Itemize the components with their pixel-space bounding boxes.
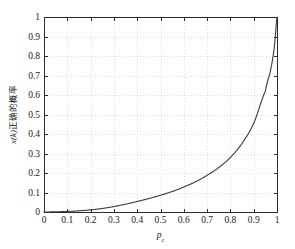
figure-container: 00.10.20.30.40.50.60.70.80.91 00.10.20.3… (0, 0, 295, 249)
x-tick-label: 0.8 (224, 215, 236, 225)
y-tick-label: 0.4 (28, 129, 40, 139)
y-tick-label: 0.7 (28, 71, 40, 81)
x-tick-label: 0.5 (155, 215, 167, 225)
y-axis-title-text: x(k)正确的概率 (8, 85, 18, 145)
x-tick-label: 0.7 (201, 215, 213, 225)
y-tick-label: 0.8 (28, 51, 40, 61)
x-axis-title: pc (156, 230, 165, 243)
x-tick-label: 0 (42, 215, 47, 225)
y-axis-title: x(k)正确的概率 (8, 85, 18, 145)
y-tick-label: 0.2 (28, 168, 40, 178)
x-tick-label: 0.4 (131, 215, 143, 225)
x-tick-label: 0.1 (61, 215, 73, 225)
x-axis-title-text: pc (156, 230, 165, 243)
y-tick-label: 0 (35, 207, 40, 217)
x-tick-label: 0.2 (85, 215, 97, 225)
x-tick-label: 0.9 (248, 215, 260, 225)
y-tick-label: 0.5 (28, 110, 40, 120)
y-tick-labels-group: 00.10.20.30.40.50.60.70.80.91 (28, 12, 40, 217)
y-tick-label: 0.3 (28, 149, 40, 159)
x-tick-labels-group: 00.10.20.30.40.50.60.70.80.91 (42, 215, 280, 225)
x-tick-label: 1 (275, 215, 280, 225)
y-tick-label: 0.1 (28, 188, 40, 198)
y-tick-label: 0.6 (28, 90, 40, 100)
chart-plot: 00.10.20.30.40.50.60.70.80.91 00.10.20.3… (0, 0, 295, 249)
axes-frame (45, 18, 278, 213)
x-tick-label: 0.6 (178, 215, 190, 225)
y-tick-label: 1 (35, 12, 40, 22)
data-series-line (44, 17, 277, 212)
y-tick-label: 0.9 (28, 32, 40, 42)
x-tick-label: 0.3 (108, 215, 120, 225)
tickmarks-group (44, 17, 278, 213)
gridlines-group (44, 17, 277, 212)
